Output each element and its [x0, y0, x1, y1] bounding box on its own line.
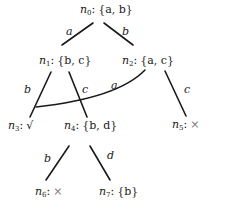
node-n5: n5:× [172, 119, 200, 134]
edge-label-n0-n1: a [66, 26, 73, 38]
node-set: {b} [117, 185, 138, 198]
tree-edges [0, 0, 225, 205]
edge-label-n1-n4: c [82, 84, 88, 96]
node-n0: n0:{a, b} [80, 4, 133, 19]
node-n6: n6:× [35, 186, 63, 201]
edge-label-n4-n6: b [44, 153, 51, 165]
edge-label-n1-n3: b [24, 84, 31, 96]
edge-label-n2-n3: a [111, 80, 118, 92]
node-n3: n3:√ [8, 120, 33, 135]
node-n1: n1:{b, c} [39, 55, 91, 70]
edge-label-n0-n2: b [122, 26, 129, 38]
node-set: {a, b} [98, 3, 133, 16]
node-n4: n4:{b, d} [64, 120, 117, 135]
cross-icon: × [190, 118, 199, 131]
edge-n2-n3 [36, 70, 145, 107]
edge-label-n4-n7: d [107, 150, 114, 162]
edge-label-n2-n5: c [184, 84, 190, 96]
checkmark-icon: √ [26, 119, 33, 132]
edge-n2-n5 [165, 71, 186, 116]
cross-icon: × [53, 185, 62, 198]
node-set: {a, c} [140, 54, 174, 67]
node-set: {b, d} [82, 119, 117, 132]
node-n7: n7:{b} [99, 186, 138, 201]
edge-n1-n3 [30, 72, 51, 117]
node-set: {b, c} [57, 54, 91, 67]
node-n2: n2:{a, c} [122, 55, 174, 70]
